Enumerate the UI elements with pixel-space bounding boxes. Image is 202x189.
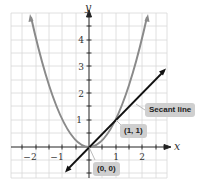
x-tick-neg1: −1 bbox=[50, 152, 63, 162]
y-tick-1: 1 bbox=[76, 115, 82, 125]
point-0-0-label: (0, 0) bbox=[93, 162, 120, 176]
x-tick-2: 2 bbox=[139, 152, 145, 162]
secant-line-label: Secant line bbox=[145, 103, 195, 117]
x-tick-neg2: −2 bbox=[23, 152, 36, 162]
y-tick-4: 4 bbox=[78, 35, 84, 45]
y-axis-label: y bbox=[84, 1, 92, 14]
point-1-1-label: (1, 1) bbox=[120, 124, 147, 138]
chart-canvas: −2 −1 1 2 1 2 3 4 x y bbox=[0, 0, 202, 189]
x-axis-label: x bbox=[174, 140, 181, 153]
x-tick-1: 1 bbox=[113, 152, 119, 162]
y-tick-2: 2 bbox=[78, 89, 84, 99]
y-tick-3: 3 bbox=[78, 62, 84, 72]
